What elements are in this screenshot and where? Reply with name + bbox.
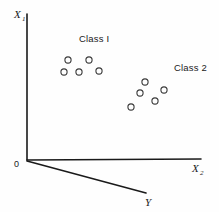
data-point (86, 57, 92, 63)
cluster-label-class-2: Class 2 (174, 62, 207, 73)
data-point (137, 90, 143, 96)
axis-label-y: Y (145, 196, 153, 208)
cluster-label-class-1: Class I (79, 33, 109, 44)
scatter-figure: X 1 X 2 Y 0 Class I Class 2 (0, 0, 219, 212)
axis-label-x1: X (13, 8, 22, 20)
figure-canvas: X 1 X 2 Y 0 Class I Class 2 (0, 0, 219, 212)
data-point (161, 87, 167, 93)
data-point (152, 98, 158, 104)
data-point (96, 68, 102, 74)
data-point (142, 79, 148, 85)
data-point (65, 57, 71, 63)
data-point (76, 69, 82, 75)
origin-label: 0 (14, 159, 19, 169)
axis-subscript-x1: 1 (22, 15, 26, 23)
depth-axis-y (27, 161, 146, 193)
data-point (128, 104, 134, 110)
data-points-layer (61, 57, 167, 110)
axis-label-x2: X (191, 162, 200, 174)
horizontal-axis-x2 (27, 159, 201, 160)
series-2-points (128, 79, 167, 110)
axis-subscript-x2: 2 (200, 169, 204, 177)
series-1-points (61, 57, 102, 75)
data-point (61, 69, 67, 75)
